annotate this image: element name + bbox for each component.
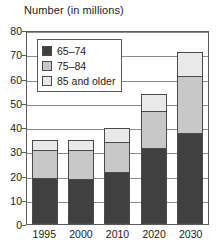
x-axis-tick-label: 1995	[31, 226, 57, 246]
x-axis: 19952000201020202030	[26, 226, 209, 246]
legend-swatch-icon	[42, 46, 52, 56]
bar-segment[interactable]	[68, 179, 94, 224]
bar-segment[interactable]	[141, 94, 167, 111]
y-axis-tick-label: 30	[10, 146, 22, 158]
bar-segment[interactable]	[68, 140, 94, 150]
chart-title: Number (in millions)	[24, 4, 124, 16]
bar-segment[interactable]	[177, 76, 203, 133]
bar-segment[interactable]	[177, 52, 203, 76]
legend-item-label: 85 and older	[57, 75, 115, 87]
bar-segment[interactable]	[32, 150, 58, 178]
legend-item[interactable]: 85 and older	[42, 73, 115, 88]
bar-segment[interactable]	[141, 111, 167, 147]
plot-area: 65–7475–8485 and older	[26, 31, 209, 225]
legend-swatch-icon	[42, 61, 52, 71]
bar-segment[interactable]	[68, 150, 94, 179]
bar-segment[interactable]	[32, 178, 58, 224]
chart-root: Number (in millions) 80706050403020100 6…	[0, 0, 218, 247]
x-axis-tick-label: 2010	[104, 226, 130, 246]
y-axis: 80706050403020100	[0, 31, 22, 225]
bar-segment[interactable]	[104, 128, 130, 141]
legend-item-label: 75–84	[57, 60, 86, 72]
bar-segment[interactable]	[32, 140, 58, 150]
x-axis-tick-label: 2000	[68, 226, 94, 246]
bar-segment[interactable]	[141, 148, 167, 224]
bar-segment[interactable]	[104, 172, 130, 224]
legend-item[interactable]: 65–74	[42, 43, 115, 58]
y-axis-tick-label: 50	[10, 98, 22, 110]
y-axis-tick-label: 40	[10, 122, 22, 134]
x-axis-tick-label: 2030	[178, 226, 204, 246]
bar-segment[interactable]	[177, 133, 203, 224]
y-axis-tick-label: 70	[10, 49, 22, 61]
bar-column[interactable]	[177, 32, 203, 224]
legend-item[interactable]: 75–84	[42, 58, 115, 73]
legend: 65–7475–8485 and older	[37, 39, 122, 92]
legend-item-label: 65–74	[57, 45, 86, 57]
y-axis-tick-label: 80	[10, 25, 22, 37]
x-axis-tick-label: 2020	[141, 226, 167, 246]
y-axis-tick-label: 20	[10, 171, 22, 183]
bar-column[interactable]	[141, 32, 167, 224]
y-axis-tick-label: 60	[10, 74, 22, 86]
legend-swatch-icon	[42, 76, 52, 86]
y-axis-tick-label: 10	[10, 195, 22, 207]
bar-segment[interactable]	[104, 142, 130, 172]
